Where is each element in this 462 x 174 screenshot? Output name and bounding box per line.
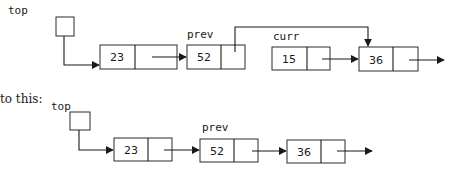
after-node-23: 23 <box>114 138 172 161</box>
after-node-23-value: 23 <box>124 144 138 157</box>
after-node-36-box <box>287 140 345 163</box>
node-52: 52 <box>187 45 245 69</box>
top-to-node-23-arrow <box>64 36 99 65</box>
caption-text: to this: <box>0 92 42 106</box>
node-15-box <box>272 47 330 70</box>
node-23-value: 23 <box>110 51 124 64</box>
after-node-36-value: 36 <box>297 146 311 159</box>
after-node-52-box <box>200 139 258 162</box>
after-top-pointer-label: top <box>51 100 71 113</box>
top-pointer-label: top <box>8 4 28 17</box>
after-node-52: 52 <box>200 139 258 162</box>
prev-pointer-label: prev <box>187 28 214 41</box>
after-node-23-box <box>114 138 172 161</box>
node-52-value: 52 <box>197 51 211 64</box>
node-52-box <box>187 45 245 69</box>
before-diagram: top 23 prev 52 curr 15 <box>8 4 444 71</box>
node-36-value: 36 <box>369 54 383 67</box>
after-top-pointer-box <box>70 112 90 130</box>
after-node-36: 36 <box>287 140 345 163</box>
after-diagram: top 23 prev 52 36 <box>51 100 372 163</box>
node-15: 15 <box>272 47 330 70</box>
after-top-to-node-23-arrow <box>79 130 113 150</box>
top-pointer-box <box>56 17 74 36</box>
after-prev-pointer-label: prev <box>202 121 229 134</box>
node-36-box <box>359 47 418 71</box>
node-15-value: 15 <box>282 53 296 66</box>
linked-list-diagram: top 23 prev 52 curr 15 <box>0 0 462 174</box>
node-36: 36 <box>359 47 418 71</box>
curr-pointer-label: curr <box>273 30 300 43</box>
after-node-52-value: 52 <box>210 145 224 158</box>
